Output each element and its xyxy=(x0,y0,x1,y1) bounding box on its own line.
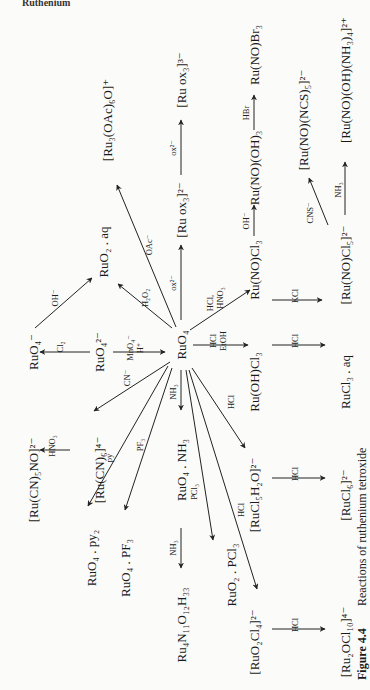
node-ru4n11o12h33: Ru₄N₁₁O₁₂H₃₃ xyxy=(174,587,189,662)
ruthenium-tetroxide-reaction-diagram: Ruthenium xyxy=(0,0,370,690)
reagent-pcl3: PCl₃ xyxy=(189,484,199,500)
reagent-nh3-b: NH₃ xyxy=(168,540,178,555)
reagent-etoh: EtOH xyxy=(218,331,228,351)
node-ruo2-pcl3: RuO₂ . PCl₃ xyxy=(224,544,239,607)
node-rucl6: [RuCl₆]²⁻ xyxy=(338,469,353,520)
node-ruo2cl4: [RuO₂Cl₄]²⁻ xyxy=(247,609,262,674)
reagent-pf3: PF₃ xyxy=(135,439,145,451)
reagent-hcl-c: HCl, xyxy=(205,295,215,311)
reagent-oh-a: OH⁻ xyxy=(50,290,60,307)
species-nodes: RuO₄ RuO₄⁻ RuO₄²⁻ RuO₂ . aq [Ru₃(OAc)₆O]… xyxy=(26,17,353,677)
node-ruo4-pf3: RuO₄ . PF₃ xyxy=(118,539,133,597)
reagent-py: py xyxy=(104,453,114,462)
reagent-hcl-g: HCl xyxy=(226,394,236,409)
node-ruo4-minus: RuO₄⁻ xyxy=(26,334,41,370)
node-ru3oac6o: [Ru₃(OAc)₆O]⁺ xyxy=(100,79,115,161)
node-rucl5h2o: [RuCl₅H₂O]²⁻ xyxy=(247,458,262,533)
reagent-ox-b: ox²⁻ xyxy=(168,140,178,156)
reagent-mno4: MnO₄⁻ xyxy=(125,335,135,360)
arrow-oh-a xyxy=(35,278,92,328)
reagent-hplus: H⁺ xyxy=(135,343,145,354)
node-ruo4-py2: RuO₄ . py₂ xyxy=(84,530,99,586)
reagent-hcl-i: HCl xyxy=(236,502,246,517)
reagent-ox-a: ox²⁻ xyxy=(168,275,178,291)
arrow-pcl3 xyxy=(186,370,213,540)
node-ruo2-aq: RuO₂ . aq xyxy=(96,226,111,278)
node-runo-oh-nh34: [Ru(NO)(OH)(NH₃)₄]²⁺ xyxy=(338,17,353,143)
reaction-arrows xyxy=(35,95,345,629)
figure-caption: Figure 4.4 Reactions of ruthenium tetrox… xyxy=(355,448,369,680)
reagent-hbr: HBr xyxy=(241,106,251,121)
node-ruo4-nh3: RuO₄ . NH₃ xyxy=(174,439,189,501)
arrow-pf3 xyxy=(125,368,172,510)
reagent-hcl-e: HCl xyxy=(208,333,218,348)
reagent-hno3-d: HNO₃ xyxy=(47,435,57,456)
page-header-fragment: Ruthenium xyxy=(22,0,71,8)
node-rucl3-aq: RuCl₃ . aq xyxy=(338,355,353,410)
reagent-h2o2: H₂O₂ xyxy=(140,289,150,307)
node-rucn6: [Ru(CN)₆]⁴⁻ xyxy=(92,437,107,503)
node-runo-oh3: Ru(NO)(OH)₃ xyxy=(247,131,262,206)
node-ruox3-2minus: [Ru ox₃]²⁻ xyxy=(174,182,189,237)
caption-text: Reactions of ruthenium tetroxide xyxy=(355,448,369,606)
reagent-cn: CN⁻ xyxy=(122,370,132,386)
node-ruo4-2minus: RuO₄²⁻ xyxy=(92,332,107,372)
reagent-hcl-j: HCl xyxy=(290,617,300,632)
node-ruox3-3minus: [Ru ox₃]³⁻ xyxy=(174,52,189,107)
reagent-cl2: Cl₂ xyxy=(55,341,65,352)
node-runo-cl3: Ru(NO)Cl₃ xyxy=(247,240,262,299)
reagent-oh-b: OH⁻ xyxy=(241,213,251,230)
node-runo-br3: Ru(NO)Br₃ xyxy=(247,25,262,85)
reagent-kcl: KCl xyxy=(290,288,300,303)
reagent-nh3-a: NH₃ xyxy=(168,384,178,399)
node-runo-cl5: [Ru(NO)Cl₅]²⁻ xyxy=(338,226,353,305)
node-ruo4: RuO₄ xyxy=(174,330,189,360)
node-runo-ncs5: [Ru(NO)(NCS)₅]²⁻ xyxy=(296,70,311,171)
reagent-hcl-f: HCl xyxy=(290,333,300,348)
node-ru2ocl10: [Ru₂OCl₁₀]⁴⁻ xyxy=(338,607,353,678)
reagent-hno3-c: HNO₃ xyxy=(215,287,225,308)
reagent-hcl-h: HCl xyxy=(290,466,300,481)
reagent-nh3-c: NH₃ xyxy=(333,182,343,197)
figure-label: Figure 4.4 xyxy=(355,628,369,680)
node-ruoh-cl3: Ru(OH)Cl₃ xyxy=(247,352,262,411)
node-rucn5no: [Ru(CN)₅NO]²⁻ xyxy=(26,438,41,523)
arrow-hcl-g xyxy=(192,368,245,448)
reagent-oac: OAc⁻ xyxy=(144,235,154,256)
reagent-cns: CNS⁻ xyxy=(305,202,315,223)
